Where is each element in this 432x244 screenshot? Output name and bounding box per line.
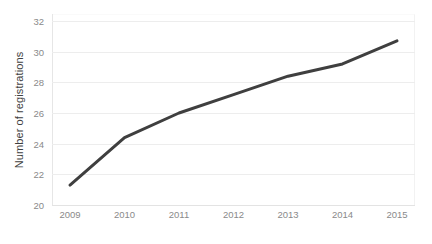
series-line-number-of-registrations: [70, 41, 397, 185]
line-chart: 20222426283032 Number of registrations 2…: [0, 0, 432, 244]
series-layer: [0, 0, 432, 244]
